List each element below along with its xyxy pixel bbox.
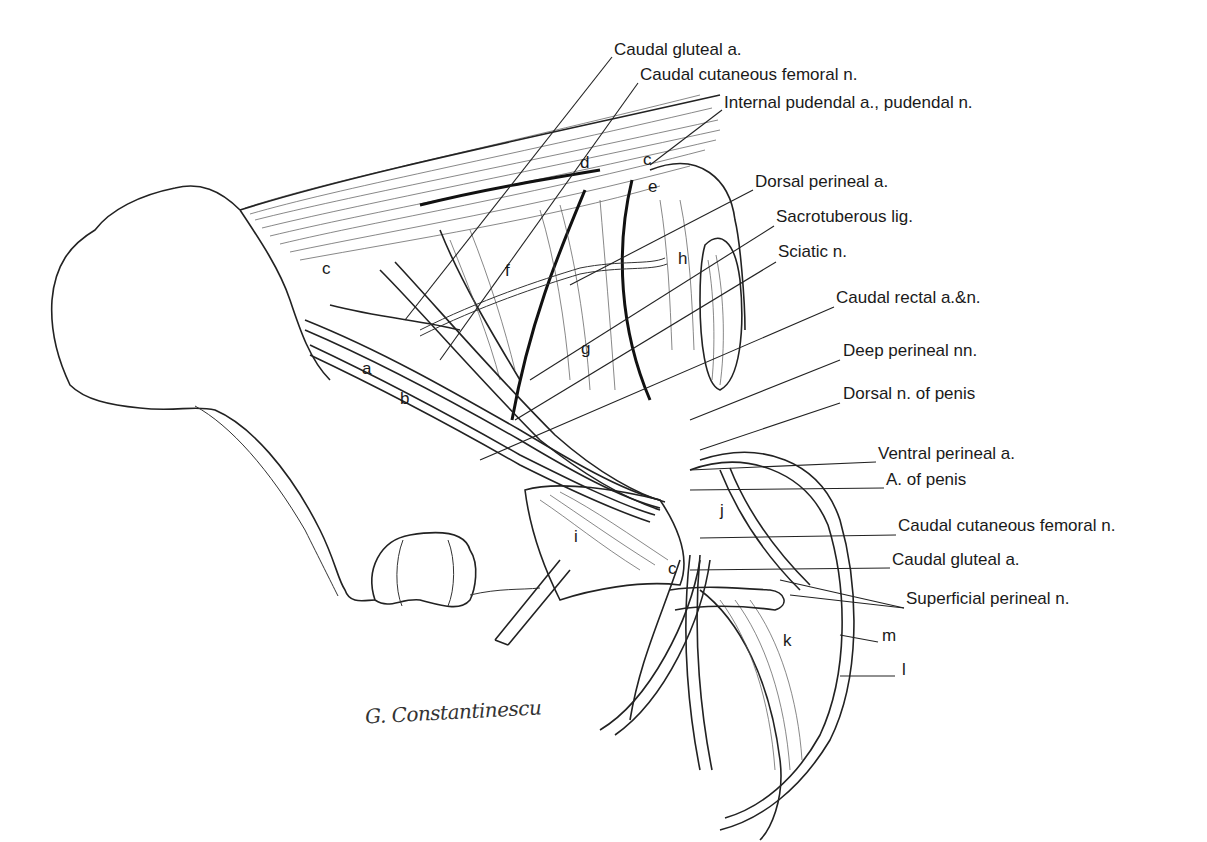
anatomical-figure: Caudal gluteal a. Caudal cutaneous femor… (0, 0, 1207, 842)
letter-c-left: c (322, 260, 331, 278)
pelvis-outline (52, 186, 375, 601)
letter-h: h (678, 250, 687, 268)
letter-c-top: c (643, 151, 652, 169)
line-drawing (0, 0, 1207, 842)
letter-l: l (902, 661, 906, 679)
label-sciatic-n: Sciatic n. (778, 242, 847, 262)
letter-c-bottom: c (668, 560, 677, 578)
label-caudal-gluteal-a-bottom: Caudal gluteal a. (892, 550, 1020, 570)
label-caudal-gluteal-a-top: Caudal gluteal a. (614, 40, 742, 60)
label-sacrotuberous-lig: Sacrotuberous lig. (776, 207, 913, 227)
muscle-group (440, 164, 745, 420)
label-caudal-cutaneous-femoral-n-bottom: Caudal cutaneous femoral n. (898, 516, 1115, 536)
label-dorsal-n-penis: Dorsal n. of penis (843, 384, 975, 404)
letter-f: f (505, 262, 510, 280)
label-dorsal-perineal-a: Dorsal perineal a. (755, 172, 888, 192)
label-caudal-cutaneous-femoral-n-top: Caudal cutaneous femoral n. (640, 65, 857, 85)
label-caudal-rectal: Caudal rectal a.&n. (836, 288, 981, 308)
ischium-outline (372, 533, 476, 607)
label-a-of-penis: A. of penis (886, 470, 966, 490)
letter-b: b (400, 390, 409, 408)
nerve-bundles (305, 258, 667, 522)
label-superficial-perineal-n: Superficial perineal n. (906, 589, 1069, 609)
label-deep-perineal-nn: Deep perineal nn. (843, 341, 977, 361)
lower-structures (525, 453, 854, 841)
letter-k: k (783, 632, 792, 650)
letter-j: j (720, 502, 724, 520)
letter-m: m (882, 627, 896, 645)
bone-shaft (495, 560, 570, 645)
label-internal-pudendal: Internal pudendal a., pudendal n. (724, 93, 973, 113)
label-ventral-perineal-a: Ventral perineal a. (878, 444, 1015, 464)
letter-g: g (581, 340, 590, 358)
letter-i: i (574, 528, 578, 546)
letter-e: e (648, 178, 657, 196)
letter-a: a (362, 360, 371, 378)
letter-d: d (580, 154, 589, 172)
